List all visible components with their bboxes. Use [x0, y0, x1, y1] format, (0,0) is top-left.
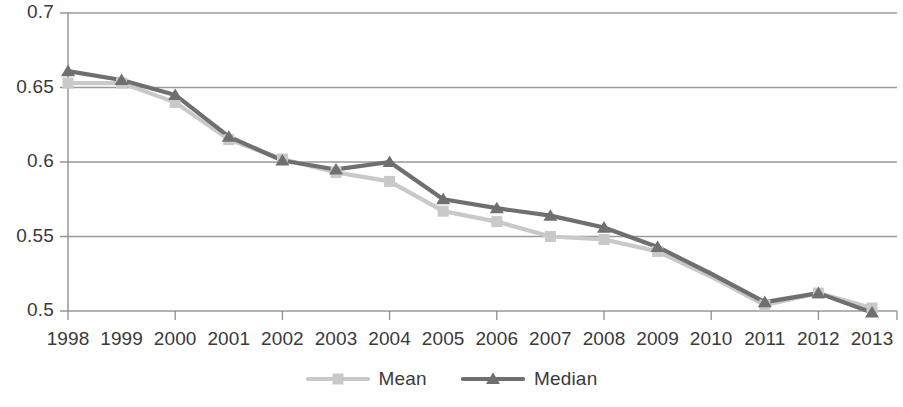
y-axis-tick-label: 0.65 — [0, 76, 54, 98]
x-axis-tick-label: 2008 — [577, 328, 631, 350]
y-axis-tick-label: 0.6 — [0, 150, 54, 172]
x-axis-tick-label: 1999 — [95, 328, 149, 350]
x-axis-tick-label: 2002 — [256, 328, 310, 350]
legend-item-mean[interactable]: Mean — [306, 368, 427, 390]
legend-label: Median — [534, 368, 598, 390]
x-axis-tick-label: 2001 — [202, 328, 256, 350]
x-axis-tick-label: 2004 — [363, 328, 417, 350]
x-axis-tick-label: 2013 — [845, 328, 899, 350]
y-axis-tick-label: 0.5 — [0, 299, 54, 321]
x-axis-tick-label: 2006 — [470, 328, 524, 350]
series-lines — [68, 71, 872, 312]
legend-item-median[interactable]: Median — [461, 368, 598, 390]
y-axis-tick-label: 0.55 — [0, 225, 54, 247]
gridlines — [68, 13, 897, 311]
chart-container: 0.70.650.60.550.5 1998199920002001200220… — [0, 0, 903, 407]
x-axis-ticks — [68, 311, 897, 320]
legend-triangle-marker-icon — [461, 370, 525, 388]
x-axis-tick-label: 2005 — [416, 328, 470, 350]
legend-label: Mean — [379, 368, 427, 390]
x-axis-tick-label: 2010 — [684, 328, 738, 350]
chart-legend: MeanMedian — [0, 368, 903, 390]
y-axis-tick-label: 0.7 — [0, 1, 54, 23]
x-axis-tick-label: 2000 — [148, 328, 202, 350]
x-axis-tick-label: 2007 — [524, 328, 578, 350]
x-axis-tick-label: 2011 — [738, 328, 792, 350]
legend-square-marker-icon — [306, 370, 370, 388]
x-axis-tick-label: 1998 — [41, 328, 95, 350]
y-axis-ticks — [60, 13, 68, 311]
x-axis-tick-label: 2012 — [792, 328, 846, 350]
x-axis-tick-label: 2009 — [631, 328, 685, 350]
x-axis-tick-label: 2003 — [309, 328, 363, 350]
